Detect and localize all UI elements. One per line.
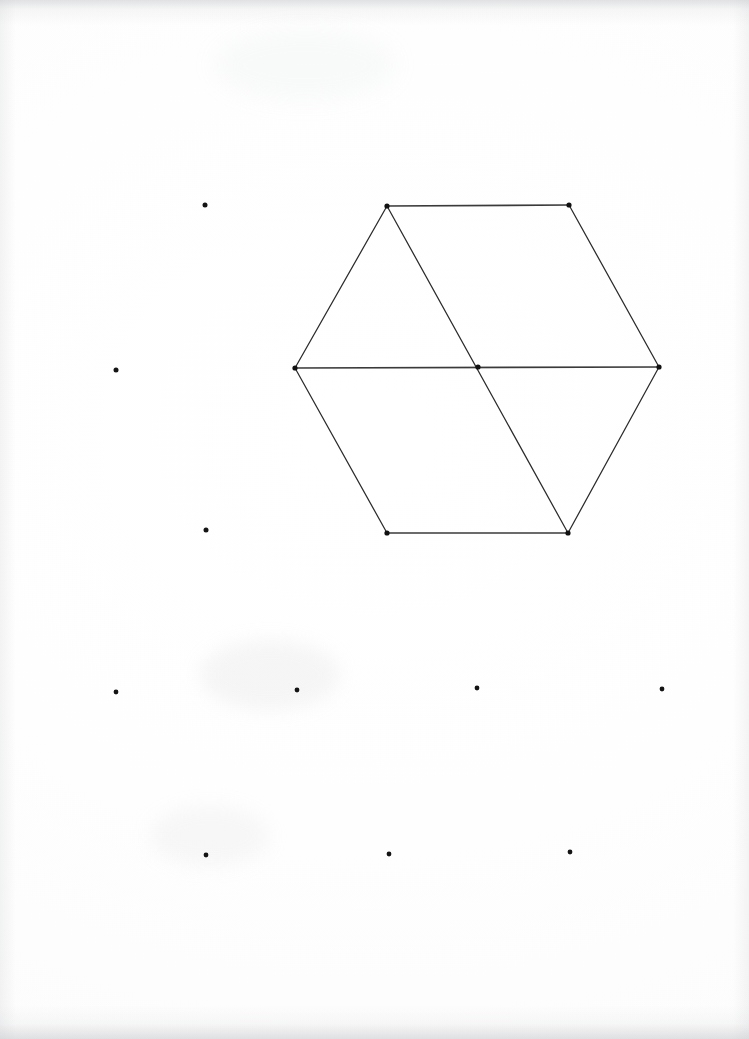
vertex-dot-middle-right: [656, 364, 661, 369]
grid-dot-r2c1: [114, 368, 119, 373]
scanned-page: [0, 0, 749, 1039]
hexagon-vertex-dots: [292, 202, 661, 535]
vertex-dot-top-right: [566, 202, 571, 207]
edge-upper-right-line: [569, 205, 659, 367]
hexagon-interior-chords: [295, 206, 659, 533]
grid-dot-r4c4: [660, 687, 665, 692]
grid-dot-r1c2: [203, 203, 208, 208]
edge-top-line: [387, 205, 569, 206]
grid-dot-r5c4: [568, 850, 573, 855]
hexagon-figure: [0, 0, 749, 1039]
grid-dot-r4c3: [475, 686, 480, 691]
edge-upper-left-line: [295, 206, 387, 368]
grid-dot-r4c1: [114, 690, 119, 695]
grid-dot-r4c2: [295, 688, 300, 693]
vertex-dot-bottom-left: [384, 530, 389, 535]
vertex-dot-bottom-right: [565, 530, 570, 535]
grid-dot-r5c2: [204, 853, 209, 858]
loose-grid-dots: [114, 203, 665, 858]
vertex-dot-middle-left: [292, 365, 297, 370]
vertex-dot-top-left: [384, 203, 389, 208]
edge-lower-right-line: [568, 367, 659, 533]
grid-dot-r5c3: [387, 852, 392, 857]
grid-dot-r3c2: [204, 528, 209, 533]
edge-lower-left-line: [295, 368, 387, 533]
vertex-dot-center: [475, 364, 480, 369]
